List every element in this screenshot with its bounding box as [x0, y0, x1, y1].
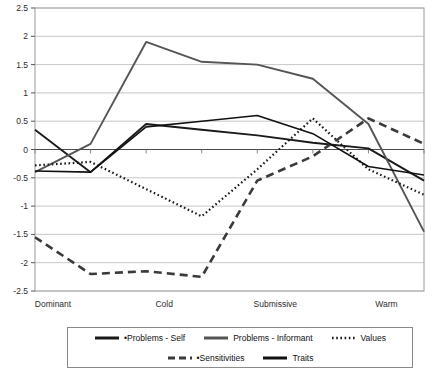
x-tick-label: Warm [375, 299, 397, 309]
legend-item-label: •Sensitivities [197, 353, 245, 363]
legend-item-label: Values [361, 333, 386, 343]
legend-item[interactable]: Values [331, 333, 386, 343]
y-tick-label: -0.5 [13, 173, 28, 183]
y-tick-label: 0 [23, 145, 28, 155]
legend-swatch-icon [331, 333, 357, 343]
legend-item[interactable]: Traits [262, 353, 313, 363]
y-tick-label: 2 [23, 31, 28, 41]
legend-item-label: •Problems - Self [124, 333, 185, 343]
y-tick-label: -1.5 [13, 229, 28, 239]
y-tick-label: -2 [20, 258, 28, 268]
legend-swatch-icon [203, 333, 229, 343]
legend-item[interactable]: Problems - Informant [203, 333, 312, 343]
legend-item[interactable]: •Problems - Self [94, 333, 185, 343]
legend-swatch-icon [262, 353, 288, 363]
x-axis-labels: DominantColdSubmissiveWarm [35, 299, 398, 309]
y-axis-labels: 2.521.510.50-0.5-1-1.5-2-2.5 [13, 3, 28, 296]
x-tick-label: Dominant [35, 299, 72, 309]
chart-canvas: 2.521.510.50-0.5-1-1.5-2-2.5 DominantCol… [0, 0, 432, 373]
legend-row-2: •SensitivitiesTraits [68, 348, 412, 368]
y-tick-label: 2.5 [16, 3, 28, 13]
line-chart: 2.521.510.50-0.5-1-1.5-2-2.5 DominantCol… [0, 0, 432, 373]
y-tick-label: 1.5 [16, 60, 28, 70]
legend-item-label: Traits [292, 353, 313, 363]
chart-legend: •Problems - SelfProblems - InformantValu… [67, 327, 413, 368]
y-tick-label: -1 [20, 201, 28, 211]
y-tick-label: 1 [23, 88, 28, 98]
legend-item-label: Problems - Informant [233, 333, 312, 343]
legend-swatch-icon [94, 333, 120, 343]
y-axis-ticks [31, 8, 35, 291]
y-tick-label: -2.5 [13, 286, 28, 296]
x-tick-label: Cold [155, 299, 173, 309]
legend-row-1: •Problems - SelfProblems - InformantValu… [68, 328, 412, 348]
legend-item[interactable]: •Sensitivities [167, 353, 245, 363]
y-tick-label: 0.5 [16, 116, 28, 126]
legend-swatch-icon [167, 353, 193, 363]
x-tick-label: Submissive [254, 299, 298, 309]
